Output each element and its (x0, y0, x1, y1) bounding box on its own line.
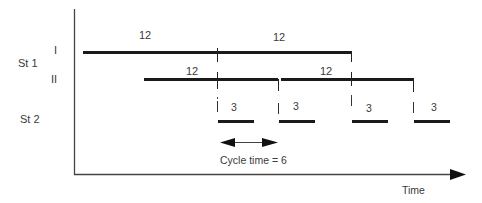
duration-label-i-1: 12 (139, 30, 151, 41)
duration-label-ii-1: 12 (186, 66, 198, 77)
x-axis-arrowhead-icon (450, 169, 466, 180)
cycle-arrow-left-icon (220, 138, 235, 147)
cycle-time-label: Cycle time = 6 (220, 155, 287, 166)
duration-label-i-2: 12 (273, 32, 285, 43)
x-axis-label: Time (402, 185, 425, 196)
timeline-diagram (0, 0, 482, 203)
duration-label-st2-4: 3 (431, 102, 437, 113)
duration-label-ii-2: 12 (320, 66, 332, 77)
duration-label-st2-3: 3 (366, 103, 372, 114)
duration-label-st2-1: 3 (231, 102, 237, 113)
row-label-i: I (54, 45, 57, 56)
cycle-arrow-right-icon (262, 138, 278, 147)
station-label-st2: St 2 (20, 114, 40, 125)
station-label-st1: St 1 (18, 58, 38, 69)
duration-label-st2-2: 3 (293, 101, 299, 112)
row-label-ii: II (51, 74, 57, 85)
